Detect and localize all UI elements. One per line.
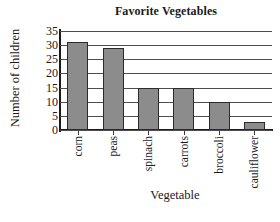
x-axis-category-label: cauliflower	[247, 136, 261, 216]
bar-spinach	[138, 88, 159, 130]
plot-area	[60, 31, 272, 130]
gridline	[60, 59, 272, 60]
x-axis-tick-mark	[184, 131, 185, 135]
y-axis-tick-label: 25	[34, 53, 58, 65]
x-axis-tick-mark	[219, 131, 220, 135]
x-axis-title: Vegetable	[120, 188, 230, 202]
y-axis-tick-label: 0	[34, 124, 58, 136]
gridline	[60, 116, 272, 117]
gridline	[60, 130, 272, 131]
bar-broccoli	[209, 102, 230, 130]
y-axis-tick-label: 20	[34, 67, 58, 79]
y-axis-title-text: Number of children	[9, 29, 22, 128]
gridline	[60, 73, 272, 74]
x-axis-category-label: broccoli	[212, 136, 226, 216]
x-axis-category-label: peas	[106, 136, 120, 216]
y-axis-tick-label: 5	[34, 110, 58, 122]
bar-carrots	[173, 88, 194, 130]
x-axis-category-label-text: cauliflower	[248, 136, 260, 188]
x-axis-tick-mark	[148, 131, 149, 135]
x-axis-category-label-text: peas	[107, 136, 119, 156]
gridline	[60, 31, 272, 32]
x-axis-category-label: carrots	[177, 136, 191, 216]
bar-peas	[103, 48, 124, 130]
x-axis-tick-mark	[254, 131, 255, 135]
gridline	[60, 45, 272, 46]
chart-title: Favorite Vegetables	[60, 4, 272, 18]
x-axis-tick-mark	[78, 131, 79, 135]
bar-chart: Favorite Vegetables Number of children 0…	[0, 0, 280, 222]
bar-cauliflower	[244, 122, 265, 130]
y-axis-tick-label: 30	[34, 39, 58, 51]
x-axis-tick-mark	[113, 131, 114, 135]
x-axis-category-label-text: carrots	[178, 136, 190, 167]
bar-corn	[67, 42, 88, 130]
y-axis-title: Number of children	[6, 24, 24, 132]
x-axis-category-label: spinach	[141, 136, 155, 216]
x-axis-category-label: corn	[71, 136, 85, 216]
y-axis-tick-label: 35	[34, 25, 58, 37]
x-axis-category-label-text: corn	[72, 136, 84, 156]
gridline	[60, 88, 272, 89]
y-axis-tick-label: 15	[34, 82, 58, 94]
gridline	[60, 102, 272, 103]
x-axis-category-label-text: broccoli	[213, 136, 225, 174]
y-axis-tick-labels: 05101520253035	[32, 0, 58, 222]
y-axis-tick-label: 10	[34, 96, 58, 108]
x-axis-category-label-text: spinach	[142, 136, 154, 171]
